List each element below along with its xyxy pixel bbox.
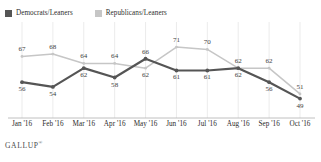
x-tick-label: Aug '16 [227,120,250,128]
x-tick-label: May '16 [134,120,158,128]
data-label: 61 [204,73,211,81]
x-tick-label: Jul '16 [198,120,217,128]
legend-item-republicans[interactable]: Republicans/Leaners [95,9,167,17]
legend-swatch-republicans [95,10,102,17]
data-point[interactable] [236,66,240,70]
gallup-line-chart: Democrats/Leaners Republicans/Leaners 56… [0,0,321,162]
data-label: 56 [18,85,25,93]
x-tick-label: Sep '16 [258,120,279,128]
vertical-gridlines [22,22,300,118]
x-axis-labels: Jan '16Feb '16Mar '16Apr '16May '16Jun '… [0,120,321,134]
legend-label-democrats: Democrats/Leaners [16,9,73,17]
x-tick-label: Oct '16 [289,120,310,128]
data-point[interactable] [82,66,86,70]
data-point[interactable] [51,85,55,89]
data-point[interactable] [298,97,302,101]
data-label: 58 [111,81,118,89]
data-label: 62 [142,71,149,79]
data-point[interactable] [206,48,209,51]
x-tick-label: Jun '16 [166,120,187,128]
data-point[interactable] [21,55,24,58]
legend-item-democrats[interactable]: Democrats/Leaners [5,9,73,17]
data-point[interactable] [113,62,116,65]
data-point[interactable] [205,69,209,73]
data-label: 62 [266,57,273,65]
chart-legend: Democrats/Leaners Republicans/Leaners [5,6,189,20]
data-point[interactable] [175,69,179,73]
data-label: 68 [49,43,56,51]
data-point[interactable] [268,67,271,70]
legend-swatch-democrats [5,10,12,17]
data-label: 71 [173,36,180,44]
data-point[interactable] [20,80,24,84]
plot-svg [0,22,321,119]
trademark-symbol: ® [39,140,43,145]
x-tick-label: Apr '16 [104,120,126,128]
data-point[interactable] [175,46,178,49]
data-label: 62 [235,57,242,65]
series-line-democrats [22,59,300,99]
data-point[interactable] [144,57,148,61]
brand-text: GALLUP [5,141,39,150]
data-label: 54 [49,90,56,98]
data-label: 61 [173,73,180,81]
data-label: 67 [18,45,25,53]
gallup-brand-footer: GALLUP® [5,140,43,150]
x-tick-label: Feb '16 [42,120,63,128]
data-point[interactable] [113,76,117,80]
series-lines [22,47,300,99]
legend-label-republicans: Republicans/Leaners [106,9,167,17]
data-label: 64 [80,52,87,60]
x-tick-label: Mar '16 [72,120,95,128]
data-label: 62 [235,71,242,79]
series-line-republicans [22,47,300,94]
data-point[interactable] [82,62,85,65]
data-label: 70 [204,38,211,46]
data-point[interactable] [144,67,147,70]
data-point[interactable] [299,93,302,96]
series-markers [20,46,302,101]
data-label: 56 [266,85,273,93]
data-label: 49 [296,102,303,110]
plot-area [0,22,321,119]
data-point[interactable] [51,53,54,56]
data-point[interactable] [267,80,271,84]
data-label: 51 [296,83,303,91]
x-tick-label: Jan '16 [12,120,32,128]
data-label: 64 [111,52,118,60]
data-label: 66 [142,48,149,56]
data-label: 62 [80,71,87,79]
